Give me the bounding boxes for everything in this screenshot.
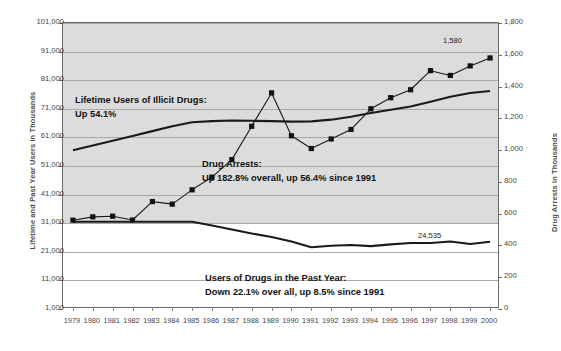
annotation-lifetime-line2: Up 54.1%	[75, 108, 207, 122]
series-marker	[150, 199, 155, 204]
data-label-pastyear-2000: 24,535	[418, 231, 441, 240]
data-label-arrests-2000: 1,580	[443, 36, 462, 45]
series-marker	[289, 133, 294, 138]
series-marker	[90, 214, 95, 219]
series-marker	[190, 187, 195, 192]
y-axis-left-ticklabel: 101,000	[37, 17, 64, 26]
series-marker	[329, 136, 334, 141]
series-marker	[348, 127, 353, 132]
series-marker	[388, 95, 393, 100]
y-axis-left-ticklabel: 51,000	[41, 160, 64, 169]
annotation-lifetime-users: Lifetime Users of Illicit Drugs: Up 54.1…	[75, 94, 207, 121]
y-axis-right-ticklabel: 1,200	[504, 112, 523, 121]
tickmark-right	[498, 309, 502, 310]
y-axis-left-ticklabel: 31,000	[41, 217, 64, 226]
y-axis-right-ticklabel: 400	[504, 239, 517, 248]
series-marker	[249, 124, 254, 129]
y-axis-left-ticklabel: 81,000	[41, 74, 64, 83]
series-marker	[309, 146, 314, 151]
annotation-past-year-users: Users of Drugs in the Past Year: Down 22…	[205, 272, 384, 299]
series-line	[73, 58, 490, 220]
series-marker	[468, 63, 473, 68]
annotation-lifetime-line1: Lifetime Users of Illicit Drugs:	[75, 94, 207, 108]
series-marker	[110, 214, 115, 219]
annotation-arrests-line2: Up 182.8% overall, up 56.4% since 1991	[202, 172, 376, 186]
series-marker	[368, 106, 373, 111]
y-axis-left-ticklabel: 91,000	[41, 46, 64, 55]
y-axis-right-title: Drug Arrests in Thousands	[550, 103, 559, 263]
series-marker	[408, 87, 413, 92]
series-marker	[448, 73, 453, 78]
y-axis-right-ticklabel: 1,000	[504, 144, 523, 153]
y-axis-right-ticklabel: 800	[504, 176, 517, 185]
series-marker	[487, 55, 492, 60]
y-axis-left-ticklabel: 41,000	[41, 189, 64, 198]
y-axis-right-ticklabel: 600	[504, 208, 517, 217]
y-axis-left-ticklabel: 61,000	[41, 131, 64, 140]
annotation-arrests-line1: Drug Arrests:	[202, 158, 376, 172]
y-axis-left-title: Lifetime and Past Year Users in Thousand…	[28, 91, 37, 251]
annotation-pastyear-line1: Users of Drugs in the Past Year:	[205, 272, 384, 286]
chart-container: Lifetime and Past Year Users in Thousand…	[0, 0, 561, 351]
y-axis-left-ticklabel: 1,000	[45, 303, 64, 312]
series-marker	[130, 217, 135, 222]
x-axis-ticklabel: 2000	[477, 316, 501, 325]
y-axis-right-ticklabel: 200	[504, 271, 517, 280]
y-axis-right-ticklabel: 1,800	[504, 17, 523, 26]
annotation-pastyear-line2: Down 22.1% over all, up 8.5% since 1991	[205, 286, 384, 300]
y-axis-left-ticklabel: 11,000	[41, 274, 64, 283]
series-marker	[70, 218, 75, 223]
y-axis-right-ticklabel: 0	[504, 303, 508, 312]
series-marker	[269, 90, 274, 95]
series-marker	[170, 202, 175, 207]
annotation-drug-arrests: Drug Arrests: Up 182.8% overall, up 56.4…	[202, 158, 376, 185]
y-axis-right-ticklabel: 1,400	[504, 81, 523, 90]
y-axis-left-ticklabel: 21,000	[41, 246, 64, 255]
y-axis-left-ticklabel: 71,000	[41, 103, 64, 112]
series-marker	[428, 68, 433, 73]
y-axis-right-ticklabel: 1,600	[504, 49, 523, 58]
